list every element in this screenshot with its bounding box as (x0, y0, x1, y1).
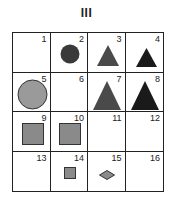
cell-number: 4 (155, 34, 160, 44)
cell-number: 16 (150, 153, 160, 163)
triangle-icon (93, 81, 121, 110)
cell-number: 12 (150, 113, 160, 123)
circle-icon (60, 44, 80, 64)
square-icon (59, 123, 81, 145)
cell-number: 6 (79, 74, 84, 84)
grid-cell-16: 16 (126, 152, 164, 192)
grid-cell-9: 9 (13, 112, 51, 152)
grid-cell-1: 1 (13, 33, 51, 73)
cell-number: 3 (116, 34, 121, 44)
cell-number: 10 (74, 113, 84, 123)
grid-cell-14: 14 (51, 152, 89, 192)
grid-cell-4: 4 (126, 33, 164, 73)
circle-icon (17, 79, 48, 110)
triangle-icon (97, 45, 119, 66)
cell-number: 15 (111, 153, 121, 163)
grid-cell-11: 11 (88, 112, 126, 152)
square-icon (22, 123, 44, 145)
grid-cell-12: 12 (126, 112, 164, 152)
cell-number: 14 (74, 153, 84, 163)
grid-cell-7: 7 (88, 73, 126, 113)
triangle-icon (136, 48, 157, 67)
cell-number: 13 (36, 153, 46, 163)
cell-number: 11 (112, 113, 121, 123)
grid-cell-15: 15 (88, 152, 126, 192)
cell-number: 2 (79, 34, 84, 44)
grid-cell-13: 13 (13, 152, 51, 192)
grid-cell-5: 5 (13, 73, 51, 113)
diamond-icon (99, 170, 115, 180)
cell-number: 9 (41, 113, 46, 123)
grid-cell-8: 8 (126, 73, 164, 113)
square-icon (64, 167, 76, 179)
puzzle-title: III (0, 6, 173, 20)
grid-cell-10: 10 (51, 112, 89, 152)
triangle-icon (131, 81, 159, 110)
grid-cell-6: 6 (51, 73, 89, 113)
grid-cell-2: 2 (51, 33, 89, 73)
cell-number: 1 (41, 34, 46, 44)
shape-grid: 1 2 3 4 5 6 7 8 (12, 32, 164, 192)
grid-cell-3: 3 (88, 33, 126, 73)
